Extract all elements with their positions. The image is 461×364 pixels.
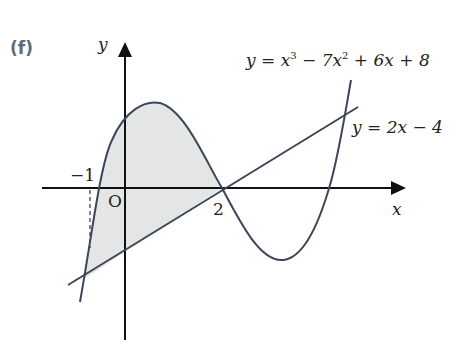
x-axis-label: x <box>392 199 402 219</box>
tick-minus-one: −1 <box>70 165 95 185</box>
y-axis-arrow-icon <box>118 42 132 57</box>
curve-label-part: + 6x + 8 <box>348 50 429 70</box>
curve-label-part: y = x <box>246 50 290 70</box>
curve-equation-label: y = x3 − 7x2 + 6x + 8 <box>246 50 430 70</box>
x-axis-arrow-icon <box>391 181 406 195</box>
shaded-region <box>84 102 222 279</box>
y-axis-label: y <box>98 34 108 54</box>
curve-label-part: − 7x <box>297 50 342 70</box>
tick-two: 2 <box>213 199 224 219</box>
origin-label: O <box>108 191 122 211</box>
line-equation-label: y = 2x − 4 <box>352 117 443 137</box>
